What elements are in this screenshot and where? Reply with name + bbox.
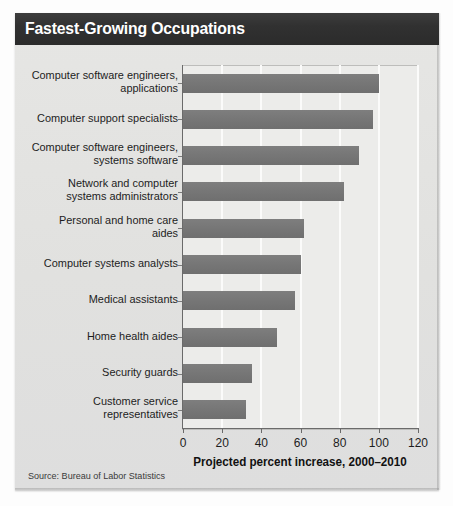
bar-category-label: Home health aides: [17, 330, 179, 343]
bar: [183, 255, 301, 274]
x-axis-tick-label: 0: [163, 436, 203, 450]
bar-category-label: Network and computer systems administrat…: [17, 177, 179, 203]
bar: [183, 182, 344, 201]
bar-row: Computer software engineers, application…: [183, 67, 418, 100]
page-title: Fastest-Growing Occupations: [25, 19, 245, 39]
y-axis-line: [182, 65, 183, 429]
bar: [183, 328, 277, 347]
bar: [183, 291, 295, 310]
bar-category-label: Computer software engineers, application…: [17, 69, 179, 95]
x-axis-tick-label: 80: [320, 436, 360, 450]
bar: [183, 110, 373, 129]
bar: [183, 400, 246, 419]
x-axis-tick: [418, 428, 419, 433]
bar-row: Customer service representatives: [183, 393, 418, 426]
x-axis-tick: [222, 428, 223, 433]
bar: [183, 219, 304, 238]
bar-row: Personal and home care aides: [183, 212, 418, 245]
x-axis-title: Projected percent increase, 2000–2010: [186, 455, 415, 469]
bar-category-label: Customer service representatives: [17, 395, 179, 421]
x-axis-tick-label: 100: [359, 436, 399, 450]
bar-category-label: Computer systems analysts: [17, 257, 179, 270]
header-bar: Fastest-Growing Occupations: [15, 13, 439, 45]
bar-category-label: Security guards: [17, 366, 179, 379]
bar: [183, 364, 252, 383]
x-axis-tick-label: 20: [202, 436, 242, 450]
bar-category-label: Medical assistants: [17, 293, 179, 306]
bar-category-label: Computer support specialists: [17, 112, 179, 125]
bar-row: Computer systems analysts: [183, 248, 418, 281]
chart-area: Computer software engineers, application…: [15, 45, 439, 490]
bar: [183, 74, 379, 93]
bar-row: Medical assistants: [183, 284, 418, 317]
bar-row: Computer support specialists: [183, 103, 418, 136]
bar-row: Computer software engineers, systems sof…: [183, 139, 418, 172]
x-axis-tick: [301, 428, 302, 433]
x-axis-tick: [261, 428, 262, 433]
figure-root: Fastest-Growing Occupations Computer sof…: [0, 0, 453, 506]
bar-row: Network and computer systems administrat…: [183, 175, 418, 208]
x-axis-tick-label: 40: [241, 436, 281, 450]
bar-row: Security guards: [183, 357, 418, 390]
x-axis-tick-label: 60: [281, 436, 321, 450]
bar-category-label: Personal and home care aides: [17, 214, 179, 240]
bar-row: Home health aides: [183, 321, 418, 354]
source-note: Source: Bureau of Labor Statistics: [28, 470, 165, 481]
bar-category-label: Computer software engineers, systems sof…: [17, 141, 179, 167]
x-axis-tick: [340, 428, 341, 433]
bar: [183, 146, 359, 165]
x-axis-tick: [183, 428, 184, 433]
x-axis-tick: [379, 428, 380, 433]
x-axis-tick-label: 120: [398, 436, 438, 450]
